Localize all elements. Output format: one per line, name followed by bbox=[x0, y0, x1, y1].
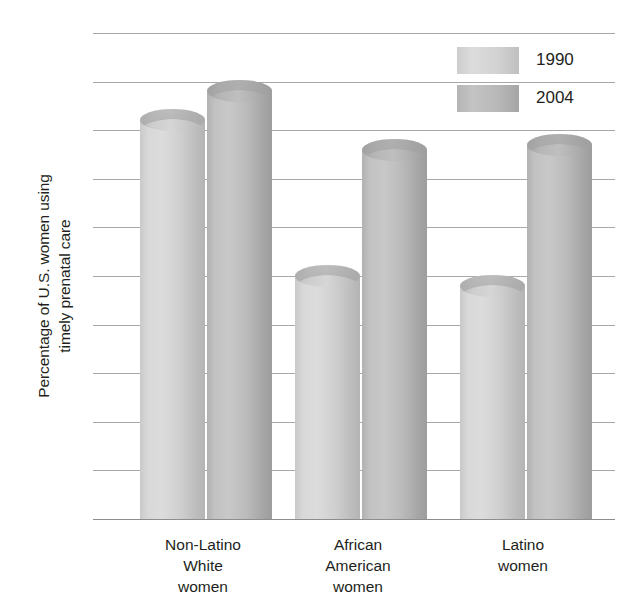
category-label-0-line-2: White bbox=[113, 555, 293, 576]
category-label-0-line-3: women bbox=[113, 576, 293, 597]
category-label-1-line-1: African bbox=[268, 534, 448, 555]
bar-cap-shade bbox=[362, 139, 427, 161]
bar-body bbox=[362, 150, 427, 519]
bar-1-1990 bbox=[295, 265, 360, 519]
legend: 1990 2004 bbox=[457, 44, 607, 120]
category-label-1: African American women bbox=[268, 534, 448, 597]
category-label-0-line-1: Non-Latino bbox=[113, 534, 293, 555]
legend-swatch-1990 bbox=[457, 47, 519, 74]
bar-body bbox=[460, 286, 525, 519]
bar-2-1990 bbox=[460, 275, 525, 519]
gridline-100 bbox=[93, 33, 615, 34]
bar-1-2004 bbox=[362, 139, 427, 519]
category-label-2-line-1: Latino bbox=[433, 534, 613, 555]
bar-cap-shade bbox=[295, 265, 360, 287]
bar-cap-shade bbox=[527, 134, 592, 156]
legend-label-2004: 2004 bbox=[536, 88, 574, 108]
bar-cap-shade bbox=[460, 275, 525, 297]
bar-body bbox=[207, 91, 272, 519]
category-label-0: Non-Latino White women bbox=[113, 534, 293, 597]
bar-body bbox=[140, 120, 205, 519]
y-axis-title-line-1: Percentage of U.S. women using bbox=[33, 174, 54, 398]
legend-item-1990: 1990 bbox=[457, 44, 607, 76]
legend-swatch-2004 bbox=[457, 85, 519, 112]
category-label-1-line-3: women bbox=[268, 576, 448, 597]
bar-0-1990 bbox=[140, 109, 205, 519]
category-label-2-line-2: women bbox=[433, 555, 613, 576]
bar-0-2004 bbox=[207, 80, 272, 519]
legend-item-2004: 2004 bbox=[457, 82, 607, 114]
legend-label-1990: 1990 bbox=[536, 50, 574, 70]
y-axis-title: Percentage of U.S. women using timely pr… bbox=[32, 86, 76, 486]
bar-body bbox=[295, 276, 360, 519]
y-axis-title-line-2: timely prenatal care bbox=[54, 219, 75, 352]
category-label-2: Latino women bbox=[433, 534, 613, 576]
bar-body bbox=[527, 145, 592, 519]
bar-2-2004 bbox=[527, 134, 592, 519]
gridline-0 bbox=[93, 519, 615, 520]
bar-chart: Percentage of U.S. women using timely pr… bbox=[0, 0, 626, 606]
category-label-1-line-2: American bbox=[268, 555, 448, 576]
